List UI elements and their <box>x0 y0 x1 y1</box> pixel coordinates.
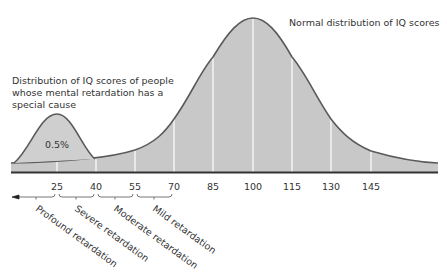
special-cause-label: Distribution of IQ scores of people whos… <box>12 75 174 110</box>
tick-55: 55 <box>129 181 141 192</box>
label-mild: Mild retardation <box>151 203 218 256</box>
tick-40: 40 <box>90 181 102 192</box>
tick-85: 85 <box>207 181 219 192</box>
tick-100: 100 <box>244 181 262 192</box>
percent-label: 0.5% <box>45 139 69 150</box>
tick-130: 130 <box>322 181 340 192</box>
range-brackets <box>12 194 172 200</box>
tick-115: 115 <box>283 181 301 192</box>
normal-distribution-label: Normal distribution of IQ scores <box>289 17 440 28</box>
special-cause-line-2: whose mental retardation has a <box>12 87 163 98</box>
tick-145: 145 <box>362 181 380 192</box>
x-tick-labels: 25 40 55 70 85 100 115 130 145 <box>51 181 380 192</box>
bracket-mild <box>137 194 172 197</box>
bracket-profound <box>18 194 55 197</box>
bracket-moderate <box>98 194 133 197</box>
special-cause-line-3: special cause <box>12 99 76 110</box>
bracket-severe <box>59 194 94 197</box>
arrow-left-icon <box>12 195 19 199</box>
tick-70: 70 <box>168 181 180 192</box>
range-labels: Profound retardation Severe retardation … <box>34 203 218 271</box>
iq-distribution-chart: 25 40 55 70 85 100 115 130 145 Profound … <box>0 0 447 279</box>
special-cause-line-1: Distribution of IQ scores of people <box>12 75 174 86</box>
tick-25: 25 <box>51 181 63 192</box>
